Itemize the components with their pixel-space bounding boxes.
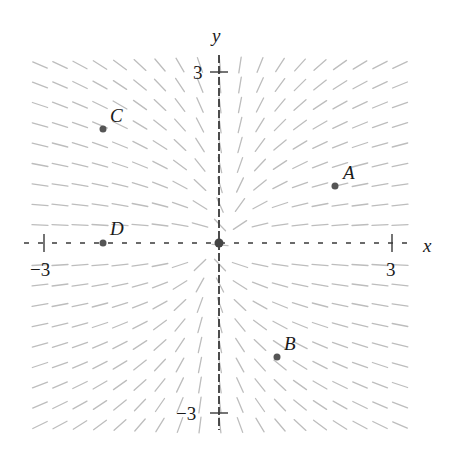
slope-segment bbox=[294, 100, 306, 110]
axes bbox=[24, 55, 412, 430]
slope-segment bbox=[236, 338, 245, 351]
slope-segment bbox=[92, 225, 108, 226]
slope-segment bbox=[238, 117, 242, 132]
slope-segment bbox=[239, 57, 241, 73]
slope-segment bbox=[292, 264, 308, 266]
slope-segment bbox=[237, 398, 243, 413]
slope-segment bbox=[293, 322, 308, 328]
slope-segment bbox=[92, 204, 108, 206]
slope-segment bbox=[353, 61, 367, 69]
slope-segment bbox=[373, 402, 388, 408]
slope-segment bbox=[73, 61, 87, 69]
slope-segment bbox=[254, 320, 267, 329]
slope-segment bbox=[196, 278, 204, 292]
slope-segment bbox=[134, 360, 147, 370]
slope-segment bbox=[52, 184, 68, 186]
slope-segment bbox=[72, 143, 87, 148]
slope-segment bbox=[372, 343, 387, 347]
slope-segment bbox=[72, 303, 88, 306]
slope-segment bbox=[132, 204, 148, 207]
slope-segment bbox=[72, 284, 88, 286]
slope-segment bbox=[372, 163, 388, 167]
slope-segment bbox=[352, 184, 368, 187]
point-c-label: C bbox=[110, 106, 123, 125]
slope-segment bbox=[73, 362, 88, 368]
slope-segment bbox=[273, 321, 287, 328]
slope-segment bbox=[373, 422, 387, 429]
slope-segment bbox=[372, 323, 388, 326]
slope-segment bbox=[253, 282, 268, 288]
slope-segment bbox=[113, 322, 128, 328]
slope-segment bbox=[133, 341, 146, 350]
slope-segment bbox=[52, 343, 67, 348]
slope-segment bbox=[255, 359, 266, 371]
point-a-dot bbox=[332, 183, 339, 190]
slope-segment bbox=[172, 224, 188, 227]
slope-segment bbox=[273, 161, 286, 170]
slope-segment bbox=[172, 263, 187, 268]
slope-segment bbox=[133, 321, 147, 328]
slope-segment bbox=[173, 181, 187, 189]
slope-segment bbox=[293, 141, 307, 149]
slope-segment bbox=[332, 303, 348, 306]
slope-segment bbox=[175, 119, 186, 131]
slope-segment bbox=[33, 382, 48, 388]
slope-segment bbox=[352, 225, 368, 226]
slope-segment bbox=[32, 225, 48, 226]
slope-segment bbox=[93, 342, 108, 348]
slope-segment bbox=[235, 199, 244, 212]
slope-segment bbox=[112, 303, 127, 308]
slope-segment bbox=[134, 60, 146, 71]
slope-segment bbox=[294, 79, 305, 90]
slope-segment bbox=[332, 204, 348, 206]
slope-segment bbox=[72, 225, 88, 226]
slope-segment bbox=[272, 264, 288, 266]
slope-segment bbox=[239, 77, 242, 93]
slope-segment bbox=[174, 160, 187, 169]
slope-segment bbox=[272, 203, 287, 208]
slope-segment bbox=[373, 102, 388, 108]
slope-segment bbox=[372, 184, 388, 187]
slope-segment bbox=[353, 402, 367, 409]
slope-segment bbox=[393, 422, 408, 428]
slope-segment bbox=[312, 264, 328, 265]
slope-segment bbox=[52, 225, 68, 226]
slope-segment bbox=[33, 62, 48, 68]
slope-segment bbox=[353, 102, 367, 109]
slope-segment bbox=[256, 418, 264, 432]
slope-segment bbox=[293, 182, 308, 187]
slope-segment bbox=[292, 303, 307, 308]
slope-segment bbox=[392, 383, 407, 388]
slope-segment bbox=[32, 363, 47, 368]
slope-segment bbox=[152, 203, 167, 207]
slope-segment bbox=[392, 284, 408, 286]
slope-segment bbox=[274, 140, 286, 150]
slope-segment bbox=[177, 378, 184, 392]
slope-segment bbox=[73, 122, 88, 127]
slope-segment bbox=[313, 361, 327, 368]
slope-segment bbox=[294, 120, 307, 129]
slope-segment bbox=[273, 302, 288, 308]
slope-segment bbox=[155, 79, 166, 90]
slope-segment bbox=[152, 224, 168, 226]
slope-segment bbox=[273, 181, 287, 188]
slope-segment bbox=[353, 382, 368, 388]
slope-segment bbox=[154, 120, 167, 130]
point-c-dot bbox=[100, 126, 107, 133]
slope-segment bbox=[333, 142, 348, 148]
slope-segment bbox=[393, 402, 408, 408]
slope-segment bbox=[32, 184, 48, 186]
slope-segment bbox=[195, 159, 205, 171]
slope-segment bbox=[333, 81, 346, 90]
slope-segment bbox=[173, 202, 188, 207]
slope-segment bbox=[353, 421, 367, 429]
slope-segment bbox=[112, 204, 128, 207]
slope-segment bbox=[32, 343, 47, 347]
slope-segment bbox=[153, 161, 167, 168]
slope-segment bbox=[314, 60, 326, 70]
slope-segment bbox=[132, 224, 148, 225]
slope-segment bbox=[274, 380, 286, 391]
slope-segment bbox=[52, 304, 68, 307]
point-b-label: B bbox=[284, 334, 296, 353]
slope-segment bbox=[292, 224, 308, 226]
